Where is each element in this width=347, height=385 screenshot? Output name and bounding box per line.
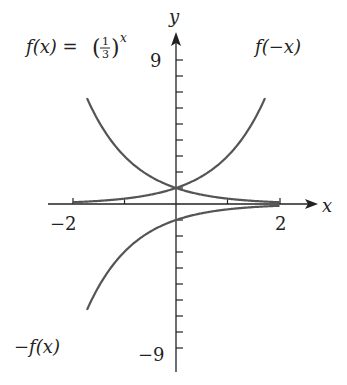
label-neg-f-x: −f(x) xyxy=(14,336,60,357)
y-min-label: −9 xyxy=(138,344,165,365)
svg-text:x: x xyxy=(120,31,127,45)
x-axis-label: x xyxy=(322,195,332,216)
curve-f-neg-x xyxy=(73,98,266,202)
svg-text:): ) xyxy=(111,35,120,60)
x-max-label: 2 xyxy=(275,213,286,234)
svg-text:3: 3 xyxy=(102,48,109,61)
label-f-neg-x: f(−x) xyxy=(253,36,301,57)
svg-text:(: ( xyxy=(92,35,101,60)
x-min-label: −2 xyxy=(50,213,77,234)
svg-text:1: 1 xyxy=(102,35,109,48)
svg-text:f(x) =: f(x) = xyxy=(24,36,78,57)
exponential-graph: y x 9 −9 −2 2 f(x) = ( 1 3 ) x f(−x) −f(… xyxy=(0,0,347,385)
label-f-x: f(x) = ( 1 3 ) x xyxy=(24,31,127,61)
curve-neg-f-x xyxy=(87,206,280,310)
y-axis-label: y xyxy=(168,6,180,27)
y-max-label: 9 xyxy=(150,50,161,71)
curve-f-x xyxy=(87,98,280,202)
